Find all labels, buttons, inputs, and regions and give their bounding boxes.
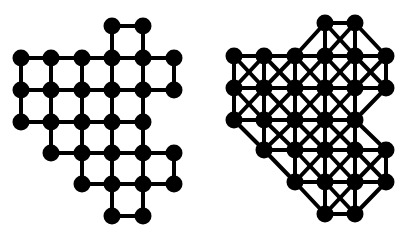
node xyxy=(226,112,243,129)
node xyxy=(166,82,183,99)
node xyxy=(135,18,152,35)
node xyxy=(135,50,152,67)
node xyxy=(104,50,121,67)
node xyxy=(135,176,152,193)
node xyxy=(378,80,395,97)
node xyxy=(104,208,121,225)
node xyxy=(74,82,91,99)
node xyxy=(43,50,60,67)
grid-graph xyxy=(13,18,183,225)
node xyxy=(166,50,183,67)
node xyxy=(347,112,364,129)
node xyxy=(43,82,60,99)
node xyxy=(256,48,273,65)
node xyxy=(256,80,273,97)
node xyxy=(74,145,91,162)
node xyxy=(104,176,121,193)
node xyxy=(226,48,243,65)
node xyxy=(166,176,183,193)
figure-canvas xyxy=(0,0,411,236)
node xyxy=(43,114,60,131)
node xyxy=(287,174,304,191)
node xyxy=(226,80,243,97)
node xyxy=(104,114,121,131)
node xyxy=(104,18,121,35)
node xyxy=(347,48,364,65)
node xyxy=(104,145,121,162)
node xyxy=(378,142,395,159)
node xyxy=(317,142,334,159)
king-graph xyxy=(226,15,395,223)
node xyxy=(74,114,91,131)
node xyxy=(317,15,334,32)
node xyxy=(74,176,91,193)
node xyxy=(317,80,334,97)
node xyxy=(347,15,364,32)
node xyxy=(135,82,152,99)
node xyxy=(135,114,152,131)
node xyxy=(378,174,395,191)
node xyxy=(166,145,183,162)
node xyxy=(347,80,364,97)
node xyxy=(287,112,304,129)
node xyxy=(287,80,304,97)
node xyxy=(135,145,152,162)
node xyxy=(287,142,304,159)
node xyxy=(317,174,334,191)
node xyxy=(347,206,364,223)
node xyxy=(317,48,334,65)
node xyxy=(256,142,273,159)
node xyxy=(13,114,30,131)
node xyxy=(74,50,91,67)
node xyxy=(347,174,364,191)
node xyxy=(317,206,334,223)
node xyxy=(135,208,152,225)
node xyxy=(13,50,30,67)
node xyxy=(347,142,364,159)
node xyxy=(43,145,60,162)
node xyxy=(104,82,121,99)
node xyxy=(317,112,334,129)
node xyxy=(256,112,273,129)
node xyxy=(287,48,304,65)
node xyxy=(378,48,395,65)
node xyxy=(13,82,30,99)
